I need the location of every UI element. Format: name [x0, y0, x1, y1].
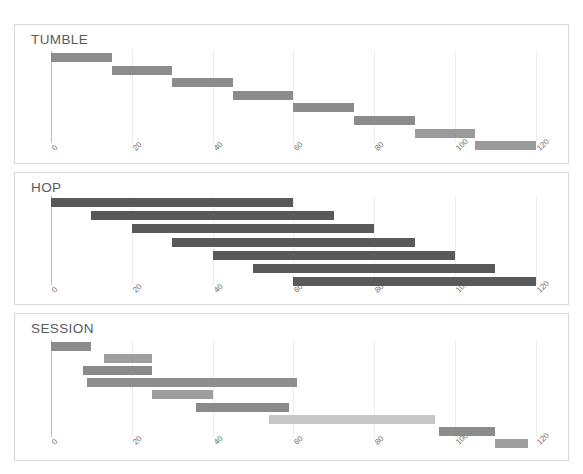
bar-tumble-7[interactable]	[415, 129, 476, 138]
bar-hop-5[interactable]	[213, 251, 455, 260]
gridline-x-20	[132, 196, 133, 285]
gridline-x-60	[293, 51, 294, 143]
gridline-x-40	[213, 51, 214, 143]
y-axis-line	[51, 196, 52, 285]
bar-session-7[interactable]	[269, 415, 435, 424]
bar-tumble-8[interactable]	[475, 141, 536, 150]
bar-tumble-5[interactable]	[293, 103, 354, 112]
bar-tumble-3[interactable]	[172, 78, 233, 87]
bar-tumble-1[interactable]	[51, 53, 112, 62]
x-tick-label-0: 0	[50, 285, 59, 295]
bar-hop-6[interactable]	[253, 264, 495, 273]
plot-area-session: 020406080100120	[15, 314, 568, 460]
bar-session-2[interactable]	[104, 354, 152, 363]
bar-hop-3[interactable]	[132, 224, 374, 233]
bar-session-3[interactable]	[83, 366, 152, 375]
bar-session-9[interactable]	[495, 439, 527, 448]
x-tick-label-120: 120	[535, 137, 551, 153]
y-axis-line	[51, 51, 52, 143]
plot-area-tumble: 020406080100120	[15, 25, 568, 163]
chart-page: TUMBLE 020406080100120 HOP 0204060801001…	[0, 0, 583, 474]
gridline-x-120	[536, 340, 537, 437]
bar-session-4[interactable]	[87, 378, 297, 387]
bar-hop-1[interactable]	[51, 198, 293, 207]
gridline-x-120	[536, 196, 537, 285]
x-tick-label-0: 0	[50, 437, 59, 447]
gridline-x-80	[374, 51, 375, 143]
chart-panel-tumble: TUMBLE 020406080100120	[14, 24, 569, 164]
bar-tumble-6[interactable]	[354, 116, 415, 125]
bar-tumble-4[interactable]	[233, 91, 294, 100]
x-tick-label-120: 120	[535, 431, 551, 447]
bar-tumble-2[interactable]	[112, 66, 173, 75]
chart-panel-session: SESSION 020406080100120	[14, 313, 569, 461]
y-axis-line	[51, 340, 52, 437]
bar-session-1[interactable]	[51, 342, 91, 351]
bar-hop-7[interactable]	[293, 277, 535, 286]
bar-hop-2[interactable]	[91, 211, 333, 220]
chart-panel-hop: HOP 020406080100120	[14, 172, 569, 305]
x-tick-label-120: 120	[535, 279, 551, 295]
gridline-x-100	[455, 340, 456, 437]
bar-session-5[interactable]	[152, 390, 213, 399]
plot-area-hop: 020406080100120	[15, 173, 568, 304]
gridline-x-120	[536, 51, 537, 143]
x-tick-label-0: 0	[50, 143, 59, 153]
x-tick-label-100: 100	[454, 137, 470, 153]
bar-session-6[interactable]	[196, 403, 289, 412]
gridline-x-40	[213, 340, 214, 437]
bar-hop-4[interactable]	[172, 238, 414, 247]
bar-session-8[interactable]	[439, 427, 496, 436]
